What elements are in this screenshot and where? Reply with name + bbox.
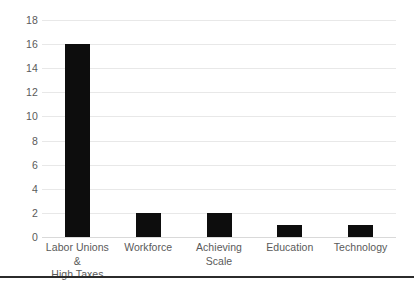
x-tick-label: Workforce bbox=[113, 241, 184, 255]
bar-series bbox=[42, 20, 396, 237]
y-tick-label: 8 bbox=[0, 135, 38, 146]
y-tick-label: 10 bbox=[0, 111, 38, 122]
y-tick-label: 16 bbox=[0, 39, 38, 50]
x-tick-label: Education bbox=[254, 241, 325, 255]
x-tick-label-line: High Taxes bbox=[42, 268, 113, 282]
y-axis: 024681012141618 bbox=[0, 20, 38, 237]
bottom-divider bbox=[0, 276, 414, 278]
x-tick-label-line: Technology bbox=[325, 241, 396, 255]
bar-chart-figure: 024681012141618 Labor Unions &High Taxes… bbox=[0, 0, 414, 288]
x-tick-label: Achieving Scale bbox=[184, 241, 255, 268]
y-tick-label: 2 bbox=[0, 208, 38, 219]
y-tick-label: 4 bbox=[0, 184, 38, 195]
x-tick-label-line: Education bbox=[254, 241, 325, 255]
x-axis: Labor Unions &High TaxesWorkforceAchievi… bbox=[42, 241, 396, 275]
y-tick-label: 12 bbox=[0, 87, 38, 98]
gridline-0 bbox=[42, 237, 396, 238]
bar bbox=[65, 44, 90, 237]
bar bbox=[277, 225, 302, 237]
x-tick-label-line: Workforce bbox=[113, 241, 184, 255]
bar bbox=[207, 213, 232, 237]
y-tick-label: 0 bbox=[0, 232, 38, 243]
x-tick-label-line: Achieving Scale bbox=[184, 241, 255, 268]
x-tick-label: Technology bbox=[325, 241, 396, 255]
x-tick-label-line: Labor Unions & bbox=[42, 241, 113, 268]
bar bbox=[348, 225, 373, 237]
y-tick-label: 14 bbox=[0, 63, 38, 74]
bar bbox=[136, 213, 161, 237]
y-tick-label: 6 bbox=[0, 159, 38, 170]
y-tick-label: 18 bbox=[0, 15, 38, 26]
